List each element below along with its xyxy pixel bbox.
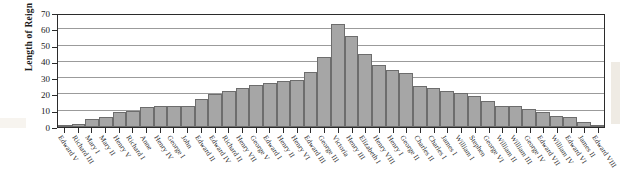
bar (522, 109, 536, 127)
bar (181, 106, 195, 127)
y-tick-label: 40 (20, 57, 50, 67)
bar (208, 94, 222, 127)
bar-series (58, 15, 604, 127)
y-tick-label: 30 (20, 74, 50, 84)
bar (454, 93, 468, 127)
bar (126, 111, 140, 127)
scan-edge-artifact (611, 62, 620, 124)
bar (399, 73, 413, 127)
bar (331, 24, 345, 127)
bar (113, 112, 127, 127)
y-tick-label: 60 (20, 25, 50, 35)
bar (495, 106, 509, 127)
bar (413, 86, 427, 127)
bar (372, 65, 386, 127)
y-tick-label: 0 (20, 123, 50, 133)
bar (140, 107, 154, 127)
bar (481, 101, 495, 127)
bar (386, 70, 400, 127)
bar (222, 91, 236, 127)
bar (154, 106, 168, 127)
bar (58, 125, 72, 127)
bar (577, 122, 591, 127)
bar (249, 85, 263, 127)
bar (195, 99, 209, 127)
x-axis-labels: Edward VRichard IIIMary IMary IIHenry VR… (57, 128, 605, 192)
plot-area (57, 14, 605, 128)
bar (317, 57, 331, 127)
bar (290, 80, 304, 127)
bar (427, 88, 441, 127)
bar (563, 117, 577, 127)
bar (509, 106, 523, 127)
y-tick-label: 20 (20, 90, 50, 100)
bar (167, 106, 181, 127)
bar (85, 119, 99, 127)
bar (536, 112, 550, 127)
y-tick-label: 70 (20, 9, 50, 19)
chart-figure: Length of Reign 010203040506070 Edward V… (0, 0, 630, 192)
bar (236, 88, 250, 127)
bar (263, 83, 277, 127)
bar (277, 81, 291, 127)
bar (72, 124, 86, 127)
bar (440, 91, 454, 127)
bar (358, 54, 372, 127)
bar (345, 36, 359, 127)
bar (304, 72, 318, 127)
bar (99, 117, 113, 127)
bar (550, 116, 564, 127)
bar (591, 125, 605, 127)
y-tick-label: 10 (20, 106, 50, 116)
y-tick-label: 50 (20, 41, 50, 51)
bar (468, 96, 482, 127)
